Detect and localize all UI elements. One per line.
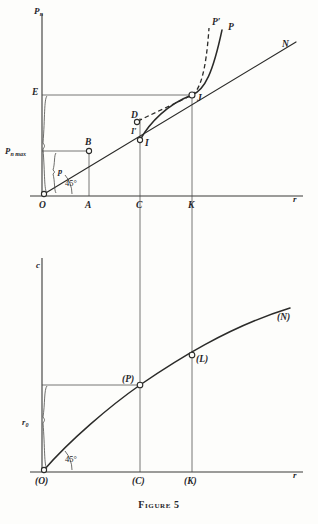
brace-r0 xyxy=(43,386,47,469)
label-series-N: N xyxy=(281,39,290,49)
label-I: I xyxy=(144,138,149,148)
brace-pn-max xyxy=(43,96,47,193)
lower-x-axis-label: r xyxy=(293,470,297,480)
label-D: D xyxy=(130,110,138,120)
label-C: C xyxy=(136,200,143,210)
label-r0: r0 xyxy=(22,417,29,428)
label-C-lower: (C) xyxy=(132,476,145,487)
marker-B xyxy=(86,148,91,153)
label-O: O xyxy=(39,200,46,210)
label-A: A xyxy=(84,200,91,210)
series-lower-curve xyxy=(44,308,290,470)
label-pn-max: Pn max xyxy=(5,146,26,157)
series-P-prime-curve xyxy=(138,28,209,121)
upper-x-axis-label: r xyxy=(293,194,297,204)
label-I-prime: I′ xyxy=(130,126,137,136)
series-N-line xyxy=(44,42,296,194)
label-N-lower: (N) xyxy=(277,312,290,323)
marker-P-lower xyxy=(137,382,143,388)
label-K-lower: (K) xyxy=(184,476,197,487)
marker-I xyxy=(137,137,142,142)
marker-J xyxy=(189,92,195,98)
figure-5-svg: Pn r E B D I′ I J O A C K P′ P N Pn max … xyxy=(0,0,318,524)
label-series-P: P xyxy=(228,22,234,32)
label-p: p xyxy=(57,166,62,176)
marker-O xyxy=(41,191,46,196)
label-E: E xyxy=(31,87,38,97)
series-P-curve xyxy=(140,30,222,140)
label-K: K xyxy=(187,200,195,210)
lower-angle-label: 45° xyxy=(65,454,77,464)
marker-L-lower xyxy=(189,352,195,358)
lower-y-axis-label: c xyxy=(36,260,40,270)
label-P-lower: (P) xyxy=(122,374,134,385)
marker-D xyxy=(134,119,139,124)
label-B: B xyxy=(84,137,91,147)
lower-chart: c r (O) (C) (K) (P) (L) (N) r0 45° xyxy=(22,230,303,487)
upper-chart: Pn r E B D I′ I J O A C K P′ P N Pn max … xyxy=(5,6,303,230)
label-O-lower: (O) xyxy=(35,476,48,487)
figure-container: Pn r E B D I′ I J O A C K P′ P N Pn max … xyxy=(0,0,318,524)
upper-y-axis-label: Pn xyxy=(34,6,44,17)
label-J: J xyxy=(196,93,202,103)
label-L-lower: (L) xyxy=(196,354,208,365)
figure-caption: Figure 5 xyxy=(138,499,179,510)
marker-O-lower xyxy=(41,467,46,472)
upper-angle-label: 45° xyxy=(65,178,77,188)
label-series-P-prime: P′ xyxy=(212,17,221,27)
